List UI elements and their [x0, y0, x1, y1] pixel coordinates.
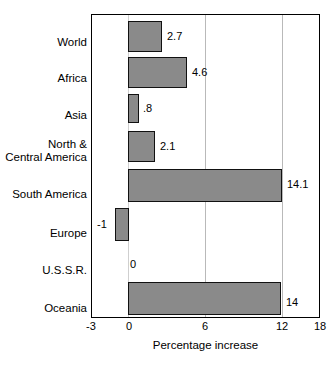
bar-asia: [128, 94, 139, 123]
bar-row-south-america: 14.1: [92, 167, 319, 203]
bar-chart: World Africa Asia North & Central Americ…: [0, 0, 334, 366]
x-tick-18: 18: [305, 320, 334, 333]
y-label-north-central-america-line2: Central America: [0, 151, 87, 164]
y-label-oceania: Oceania: [0, 302, 87, 315]
y-label-europe-line1: Europe: [50, 227, 87, 239]
bar-value-south-america: 14.1: [287, 179, 308, 190]
y-label-world-line1: World: [57, 36, 87, 48]
y-label-africa-line1: Africa: [58, 72, 87, 84]
bar-value-world: 2.7: [167, 31, 182, 42]
bar-row-europe: -1: [92, 206, 319, 242]
y-label-north-central-america: North & Central America: [0, 138, 87, 164]
x-tick-0: 0: [114, 320, 144, 333]
bar-value-africa: 4.6: [192, 67, 207, 78]
y-axis-labels: World Africa Asia North & Central Americ…: [0, 14, 87, 318]
bar-row-oceania: 14: [92, 280, 319, 316]
y-label-north-central-america-line1: North &: [0, 138, 87, 151]
bar-row-world: 2.7: [92, 19, 319, 53]
y-label-south-america: South America: [0, 188, 87, 201]
bar-north-central-america: [128, 131, 155, 162]
bar-row-asia: .8: [92, 92, 319, 124]
bar-value-ussr: 0: [130, 259, 136, 270]
bar-value-north-central-america: 2.1: [160, 141, 175, 152]
x-axis-ticks: -3 0 6 12 18: [0, 320, 334, 336]
bar-value-asia: .8: [143, 103, 152, 114]
y-label-asia-line1: Asia: [65, 109, 87, 121]
x-tick-6: 6: [190, 320, 220, 333]
y-label-oceania-line1: Oceania: [44, 302, 87, 314]
bar-value-oceania: 14: [286, 297, 298, 308]
x-axis-title: Percentage increase: [91, 339, 320, 352]
y-label-asia: Asia: [0, 109, 87, 122]
y-label-world: World: [0, 36, 87, 49]
bar-oceania: [128, 282, 281, 315]
y-label-africa: Africa: [0, 72, 87, 85]
y-label-ussr: U.S.S.R.: [0, 264, 87, 277]
x-tick--3: -3: [76, 320, 106, 333]
bar-south-america: [128, 169, 282, 202]
bar-row-north-central-america: 2.1: [92, 129, 319, 163]
bar-europe: [115, 208, 129, 241]
bar-africa: [128, 57, 187, 88]
y-label-south-america-line1: South America: [12, 188, 87, 200]
bar-row-africa: 4.6: [92, 55, 319, 89]
bar-rows: 2.7 4.6 .8 2.1 14.1: [92, 15, 319, 317]
y-label-ussr-line1: U.S.S.R.: [42, 264, 87, 276]
bar-world: [128, 21, 162, 52]
bar-value-europe: -1: [97, 219, 107, 230]
bar-row-ussr: 0: [92, 244, 319, 278]
y-label-europe: Europe: [0, 227, 87, 240]
plot-area: 2.7 4.6 .8 2.1 14.1: [91, 14, 320, 318]
x-tick-12: 12: [267, 320, 297, 333]
